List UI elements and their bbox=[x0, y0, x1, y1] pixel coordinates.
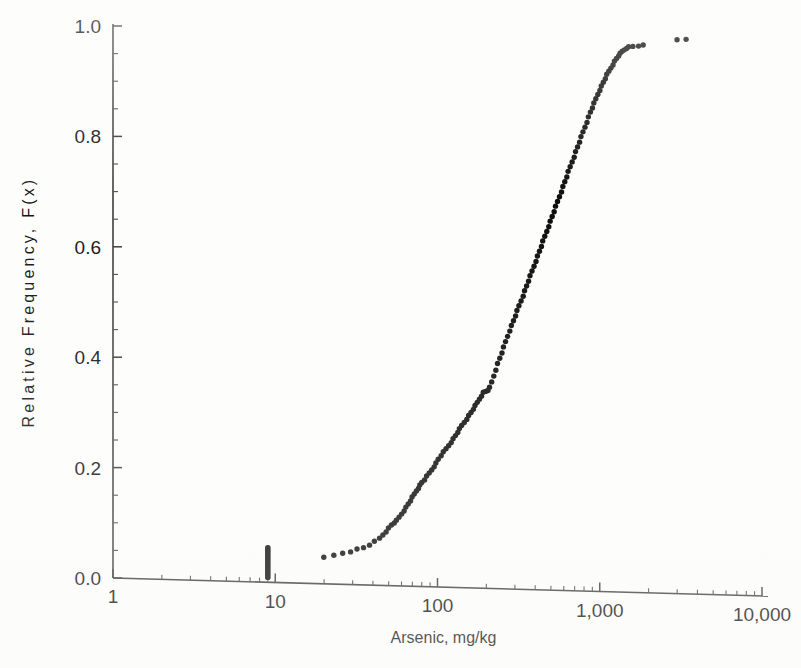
data-point bbox=[578, 134, 583, 139]
y-tick-label: 1.0 bbox=[75, 16, 101, 37]
data-point bbox=[586, 114, 591, 119]
data-point bbox=[630, 44, 635, 49]
data-point bbox=[575, 144, 580, 149]
data-point bbox=[529, 268, 534, 273]
data-point bbox=[557, 194, 562, 199]
y-axis-ticks bbox=[113, 26, 122, 578]
x-tick-label: 10,000 bbox=[733, 604, 791, 625]
data-point bbox=[560, 184, 565, 189]
data-point bbox=[636, 43, 641, 48]
data-point bbox=[340, 551, 345, 556]
x-tick-label: 10 bbox=[265, 591, 286, 612]
data-point bbox=[535, 253, 540, 258]
data-point bbox=[489, 379, 494, 384]
data-point bbox=[505, 334, 510, 339]
data-point bbox=[524, 283, 529, 288]
data-point bbox=[533, 259, 538, 264]
data-point bbox=[544, 229, 549, 234]
y-tick-label: 0.4 bbox=[75, 347, 102, 368]
data-point bbox=[321, 555, 326, 560]
data-point bbox=[516, 303, 521, 308]
data-point bbox=[542, 233, 547, 238]
data-point bbox=[569, 159, 574, 164]
data-point bbox=[555, 199, 560, 204]
x-axis-ticks bbox=[113, 569, 762, 596]
data-point bbox=[361, 545, 366, 550]
data-point bbox=[354, 546, 359, 551]
y-tick-label: 0.2 bbox=[75, 458, 101, 479]
data-point bbox=[331, 553, 336, 558]
data-point bbox=[562, 179, 567, 184]
data-point bbox=[553, 203, 558, 208]
data-point bbox=[577, 139, 582, 144]
data-point bbox=[547, 218, 552, 223]
y-axis-tick-labels: 0.00.20.40.60.81.0 bbox=[75, 16, 102, 589]
y-tick-label: 0.0 bbox=[75, 568, 101, 589]
data-point bbox=[348, 549, 353, 554]
x-tick-label: 1 bbox=[108, 586, 119, 607]
data-point bbox=[683, 37, 688, 42]
data-point bbox=[518, 298, 523, 303]
data-point bbox=[501, 344, 506, 349]
data-point bbox=[546, 224, 551, 229]
data-point bbox=[565, 169, 570, 174]
data-points-layer bbox=[321, 37, 689, 560]
data-point bbox=[522, 288, 527, 293]
data-point bbox=[520, 294, 525, 299]
data-point bbox=[567, 164, 572, 169]
data-point bbox=[495, 361, 500, 366]
data-point bbox=[509, 323, 514, 328]
data-point bbox=[527, 273, 532, 278]
data-point bbox=[540, 238, 545, 243]
x-axis-tick-labels: 1101001,00010,000 bbox=[108, 586, 791, 625]
data-point bbox=[507, 328, 512, 333]
data-point bbox=[499, 350, 504, 355]
data-point bbox=[584, 120, 589, 125]
data-point bbox=[590, 105, 595, 110]
data-point bbox=[551, 209, 556, 214]
y-axis-title: Relative Frequency, F(x) bbox=[20, 177, 37, 428]
data-point bbox=[674, 37, 679, 42]
data-point bbox=[491, 373, 496, 378]
data-point bbox=[513, 313, 518, 318]
data-point bbox=[580, 129, 585, 134]
data-point bbox=[549, 214, 554, 219]
data-point bbox=[539, 244, 544, 249]
x-tick-label: 1,000 bbox=[576, 600, 624, 621]
x-tick-label: 100 bbox=[422, 595, 454, 616]
data-point bbox=[511, 318, 516, 323]
data-point bbox=[564, 174, 569, 179]
data-point bbox=[537, 249, 542, 254]
data-point bbox=[493, 368, 498, 373]
data-point bbox=[503, 339, 508, 344]
data-point bbox=[372, 538, 377, 543]
chart-figure: 0.00.20.40.60.81.0 1101001,00010,000 Ars… bbox=[0, 0, 801, 668]
data-point bbox=[514, 308, 519, 313]
data-point bbox=[582, 124, 587, 129]
data-point bbox=[367, 542, 372, 547]
data-point bbox=[531, 264, 536, 269]
axes-group bbox=[113, 24, 768, 596]
x-axis-title: Arsenic, mg/kg bbox=[391, 629, 497, 646]
data-point bbox=[572, 154, 577, 159]
y-tick-label: 0.6 bbox=[75, 237, 101, 258]
x-axis-line bbox=[113, 578, 768, 596]
cdf-scatter-plot: 0.00.20.40.60.81.0 1101001,00010,000 Ars… bbox=[0, 0, 801, 668]
censored-value-stack bbox=[265, 545, 271, 580]
data-point bbox=[497, 356, 502, 361]
censored-values-marker bbox=[265, 545, 271, 580]
data-point bbox=[640, 42, 645, 47]
data-point bbox=[573, 149, 578, 154]
data-point bbox=[487, 384, 492, 389]
y-tick-label: 0.8 bbox=[75, 126, 101, 147]
data-point bbox=[526, 279, 531, 284]
data-point bbox=[559, 189, 564, 194]
